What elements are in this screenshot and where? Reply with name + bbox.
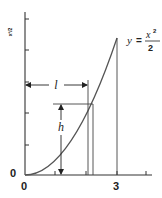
svg-text:x: x <box>145 29 151 40</box>
parabola-curve <box>25 38 117 175</box>
y-ticks <box>25 19 29 145</box>
parabola-diagram: x²/2 l h y = x 2 2 0 0 3 <box>0 0 162 198</box>
x-ticks <box>55 171 146 175</box>
origin-label-bottom: 0 <box>21 180 27 192</box>
svg-text:y: y <box>126 34 132 46</box>
y-axis-label: x²/2 <box>7 27 13 36</box>
x-tick-label-3: 3 <box>113 180 119 192</box>
origin-label-left: 0 <box>10 167 16 179</box>
height-label: h <box>58 120 64 134</box>
length-label: l <box>54 78 58 92</box>
svg-text:=: = <box>136 35 142 46</box>
svg-text:2: 2 <box>153 28 157 34</box>
svg-text:2: 2 <box>148 43 153 53</box>
equation: y = x 2 2 <box>126 28 160 53</box>
